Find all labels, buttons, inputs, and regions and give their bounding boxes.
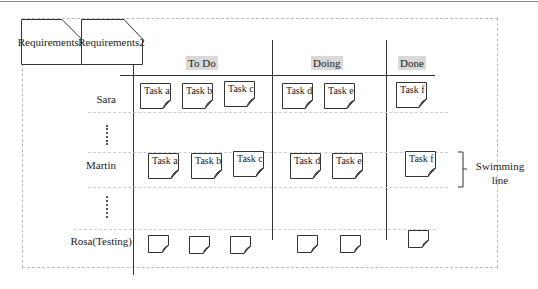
task-card[interactable]: Task f xyxy=(396,82,434,108)
legend-line2: line xyxy=(462,173,538,187)
task-card[interactable]: Task f xyxy=(405,151,443,177)
task-label: Task c xyxy=(237,153,263,164)
empty-task-card[interactable] xyxy=(297,235,319,253)
tab-requirements1: Requirements1 xyxy=(21,19,81,64)
row-label-martin: Martin xyxy=(50,159,116,171)
empty-task-card[interactable] xyxy=(148,235,170,253)
row-label-sara: Sara xyxy=(60,93,116,105)
legend-line1: Swimming xyxy=(462,159,538,173)
task-label: Task c xyxy=(228,83,254,94)
task-label: Task a xyxy=(152,155,178,166)
task-label: Task b xyxy=(195,155,221,166)
tab-requirements2: Requirements2 xyxy=(81,19,142,64)
empty-task-card[interactable] xyxy=(340,235,362,253)
swimlane-divider xyxy=(88,187,448,188)
task-card[interactable]: Task e xyxy=(324,83,362,109)
task-card[interactable]: Task c xyxy=(224,81,262,107)
empty-task-card[interactable] xyxy=(189,236,211,254)
task-card[interactable]: Task d xyxy=(290,153,328,179)
tab-label: Requirements1 xyxy=(18,36,85,48)
task-label: Task f xyxy=(400,84,425,95)
column-header-doing: Doing xyxy=(311,56,343,70)
task-card[interactable]: Task b xyxy=(182,83,220,109)
swimlane-divider xyxy=(74,229,436,230)
task-label: Task e xyxy=(328,85,354,96)
task-card[interactable]: Task c xyxy=(233,151,271,177)
task-label: Task f xyxy=(409,153,434,164)
column-divider xyxy=(386,40,387,240)
column-header-done: Done xyxy=(398,56,426,70)
empty-task-card[interactable] xyxy=(408,230,430,248)
ellipsis-vertical xyxy=(106,196,108,218)
top-rule xyxy=(0,1,538,2)
task-label: Task e xyxy=(336,155,362,166)
task-label: Task d xyxy=(286,85,312,96)
tab-label: Requirements2 xyxy=(78,36,145,48)
ellipsis-vertical xyxy=(106,125,108,145)
task-label: Task a xyxy=(144,85,170,96)
task-card[interactable]: Task b xyxy=(191,153,229,179)
swimlane-divider xyxy=(88,112,448,113)
header-divider xyxy=(120,75,435,76)
task-card[interactable]: Task a xyxy=(140,83,178,109)
task-card[interactable]: Task a xyxy=(148,153,186,179)
column-header-todo: To Do xyxy=(186,56,218,70)
swimming-line-label: Swimming line xyxy=(462,159,538,187)
task-label: Task b xyxy=(186,85,212,96)
empty-task-card[interactable] xyxy=(230,236,252,254)
task-card[interactable]: Task d xyxy=(282,83,320,109)
row-label-rosa: Rosa(Testing) xyxy=(40,235,132,247)
label-divider xyxy=(133,64,134,275)
task-label: Task d xyxy=(294,155,320,166)
column-divider xyxy=(272,40,273,240)
task-card[interactable]: Task e xyxy=(332,153,370,179)
